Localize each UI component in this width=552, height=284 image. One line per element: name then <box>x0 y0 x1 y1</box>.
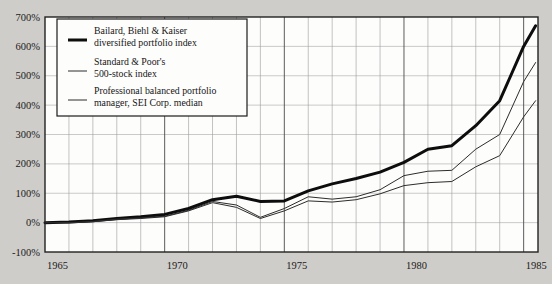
x-tick-label-1980: 1980 <box>406 260 427 271</box>
y-tick-label--100: -100% <box>12 247 40 258</box>
x-tick-label-1985: 1985 <box>526 260 547 271</box>
y-tick-label-400: 400% <box>16 100 41 111</box>
legend-label-1-line2: 500-stock index <box>94 68 157 79</box>
x-tick-label-1965: 1965 <box>47 260 68 271</box>
chart-container: 700%600%500%400%300%200%100%0%-100% 1965… <box>0 0 552 284</box>
y-tick-label-600: 600% <box>16 41 41 52</box>
line-chart: 700%600%500%400%300%200%100%0%-100% 1965… <box>0 0 552 284</box>
y-tick-label-0: 0% <box>26 217 40 228</box>
x-tick-label-1970: 1970 <box>167 260 188 271</box>
chart-legend: Bailard, Biehl & Kaiserdiversified portf… <box>57 19 247 116</box>
legend-label-0-line2: diversified portfolio index <box>94 37 197 48</box>
y-tick-label-200: 200% <box>16 158 41 169</box>
legend-label-2-line1: Professional balanced portfolio <box>94 85 217 96</box>
y-tick-label-500: 500% <box>16 70 41 81</box>
y-tick-label-100: 100% <box>16 188 41 199</box>
y-tick-label-300: 300% <box>16 129 41 140</box>
x-tick-label-1975: 1975 <box>286 260 307 271</box>
y-tick-label-700: 700% <box>16 12 41 23</box>
legend-label-1-line1: Standard & Poor's <box>94 56 166 67</box>
legend-label-0-line1: Bailard, Biehl & Kaiser <box>94 25 188 36</box>
legend-label-2-line2: manager, SEI Corp. median <box>94 97 203 108</box>
